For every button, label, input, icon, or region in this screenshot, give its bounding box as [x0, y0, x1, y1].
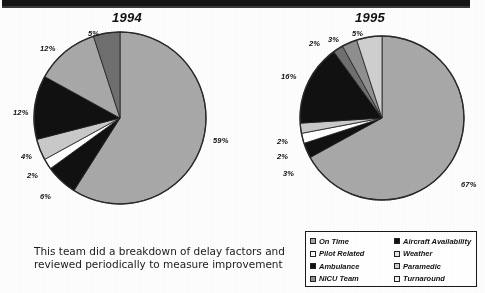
- legend-item: NICU Team: [310, 273, 394, 286]
- pie-chart-1994-svg: [30, 28, 210, 208]
- caption-line-1: This team did a breakdown of delay facto…: [34, 245, 284, 258]
- pct-label-1994-5: 5%: [88, 29, 99, 38]
- pct-label-1994-2: 2%: [27, 171, 38, 180]
- legend-item-label: NICU Team: [319, 274, 359, 283]
- pct-label-1995-16: 16%: [281, 72, 297, 81]
- legend-swatch-icon: [394, 238, 400, 244]
- caption-line-2: reviewed periodically to measure improve…: [34, 258, 284, 271]
- legend-swatch-icon: [310, 276, 316, 282]
- legend-item: Ambulance: [310, 260, 394, 273]
- legend-swatch-icon: [394, 251, 400, 257]
- pct-label-1995-2b: 2%: [277, 137, 288, 146]
- chart-title-1994: 1994: [112, 10, 142, 25]
- legend-item: Paramedic: [394, 260, 478, 273]
- legend-grid: On TimeAircraft AvailabilityPilot Relate…: [310, 235, 472, 285]
- legend-swatch-icon: [310, 251, 316, 257]
- pct-label-1995-2a: 2%: [309, 39, 320, 48]
- legend-swatch-icon: [310, 238, 316, 244]
- legend-item: Turnaround: [394, 273, 478, 286]
- legend-item: Pilot Related: [310, 248, 394, 261]
- chart-title-1995: 1995: [355, 10, 385, 25]
- pct-label-1995-2c: 2%: [277, 152, 288, 161]
- legend-swatch-icon: [310, 263, 316, 269]
- legend-item: Weather: [394, 248, 478, 261]
- legend-swatch-icon: [394, 276, 400, 282]
- legend-item: On Time: [310, 235, 394, 248]
- legend-item: Aircraft Availability: [394, 235, 478, 248]
- chart-legend: On TimeAircraft AvailabilityPilot Relate…: [305, 231, 477, 287]
- pct-label-1995-3b: 3%: [283, 169, 294, 178]
- pct-label-1994-6: 6%: [40, 192, 51, 201]
- caption-block: This team did a breakdown of delay facto…: [34, 245, 284, 271]
- legend-item-label: Aircraft Availability: [403, 237, 471, 246]
- slide-canvas: 1994 12% 5% 12% 4% 2% 6% 59% 1995 5% 3% …: [0, 0, 485, 293]
- pie-chart-1995-svg: [296, 32, 468, 204]
- pie-chart-1994: [30, 28, 210, 208]
- legend-item-label: Pilot Related: [319, 249, 364, 258]
- pct-label-1994-12b: 12%: [13, 108, 29, 117]
- pct-label-1995-3a: 3%: [328, 35, 339, 44]
- pie-1995-slices: [300, 36, 464, 200]
- pct-label-1995-67: 67%: [461, 180, 477, 189]
- legend-item-label: Weather: [403, 249, 432, 258]
- legend-item-label: Paramedic: [403, 262, 441, 271]
- scan-top-bar-shadow: [2, 6, 470, 8]
- pct-label-1994-4: 4%: [21, 152, 32, 161]
- pct-label-1994-12a: 12%: [40, 44, 56, 53]
- legend-swatch-icon: [394, 263, 400, 269]
- pie-1994-slices: [34, 32, 206, 204]
- legend-item-label: Turnaround: [403, 274, 445, 283]
- pie-chart-1995: [296, 32, 468, 204]
- pct-label-1994-59: 59%: [213, 136, 229, 145]
- pct-label-1995-5: 5%: [352, 29, 363, 38]
- legend-item-label: On Time: [319, 237, 349, 246]
- legend-item-label: Ambulance: [319, 262, 359, 271]
